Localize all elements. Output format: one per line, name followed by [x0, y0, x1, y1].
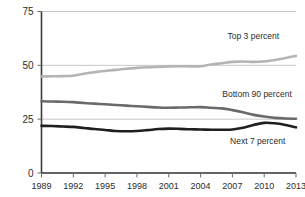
line-chart: 0255075 19891992199519982001200420072010… [0, 0, 305, 197]
x-tick-label-1992: 1992 [63, 181, 83, 191]
y-tick-label-0: 0 [28, 168, 34, 179]
series-line-top-3-percent [42, 56, 297, 77]
x-tick-label-1998: 1998 [127, 181, 147, 191]
x-tick-label-2010: 2010 [254, 181, 274, 191]
y-tick-labels-group: 0255075 [22, 6, 34, 179]
series-line-bottom-90-percent [42, 101, 297, 118]
series-label-bottom-90-percent: Bottom 90 percent [222, 89, 292, 99]
x-tick-label-2004: 2004 [191, 181, 211, 191]
x-tick-label-1989: 1989 [31, 181, 51, 191]
series-line-next-7-percent [42, 123, 297, 132]
y-tick-label-25: 25 [22, 114, 34, 125]
y-tick-label-75: 75 [22, 6, 34, 17]
series-label-top-3-percent: Top 3 percent [228, 31, 280, 41]
x-tick-label-2013: 2013 [286, 181, 305, 191]
x-tick-label-2001: 2001 [159, 181, 179, 191]
x-tick-labels-group: 198919921995199820012004200720102013 [31, 181, 305, 191]
x-tick-label-2007: 2007 [222, 181, 242, 191]
x-tick-label-1995: 1995 [95, 181, 115, 191]
y-tick-label-50: 50 [22, 60, 34, 71]
series-label-next-7-percent: Next 7 percent [230, 136, 286, 146]
chart-container: 0255075 19891992199519982001200420072010… [0, 0, 305, 197]
